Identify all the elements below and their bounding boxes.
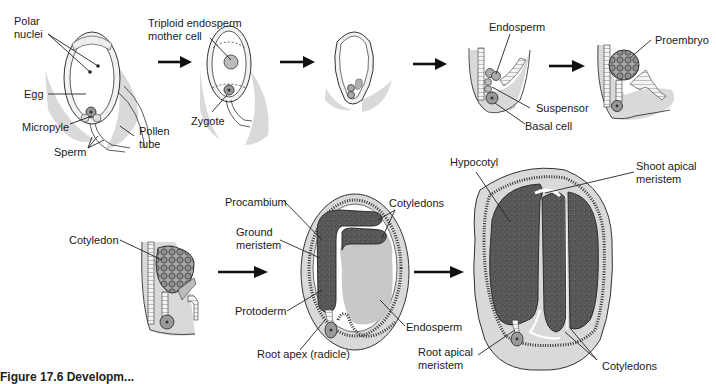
stage-fertilization: Polar nuclei Egg Micropyle Sperm Pollen … xyxy=(14,15,170,158)
stage-suspensor: Endosperm Suspensor Basal cell xyxy=(469,21,589,132)
label-cotyledons: Cotyledons xyxy=(389,197,445,209)
arrow-suspensor-to-proembryo xyxy=(549,60,585,72)
label-cotyledons-2: Cotyledons xyxy=(602,360,658,372)
label-polar-nuclei-2: nuclei xyxy=(14,28,43,40)
arrow-fertilization-to-zygote xyxy=(158,56,192,68)
label-zygote: Zygote xyxy=(191,115,225,127)
hypocotyl-region xyxy=(490,184,543,325)
stage-proembryo: Proembryo xyxy=(598,34,709,120)
label-suspensor: Suspensor xyxy=(536,102,589,114)
label-proembryo: Proembryo xyxy=(655,34,709,46)
label-pollen-tube-1: Pollen xyxy=(139,125,170,137)
label-sperm: Sperm xyxy=(54,146,86,158)
label-root-apical-1: Root apical xyxy=(418,346,473,358)
arrow-heart-to-torpedo xyxy=(218,266,268,278)
stage-mature: Hypocotyl Shoot apical meristem Root api… xyxy=(418,156,697,372)
label-endosperm-2: Endosperm xyxy=(406,321,462,333)
label-protoderm: Protoderm xyxy=(235,305,286,317)
label-endosperm: Endosperm xyxy=(489,21,545,33)
label-hypocotyl: Hypocotyl xyxy=(450,156,498,168)
label-ground-meristem-2: meristem xyxy=(236,239,281,251)
stage-heart: Cotyledon xyxy=(69,234,198,336)
label-root-apical-2: meristem xyxy=(418,359,463,371)
stage-first-division xyxy=(325,32,392,112)
label-procambium: Procambium xyxy=(225,196,287,208)
label-egg: Egg xyxy=(24,88,44,100)
label-shoot-apical-2: meristem xyxy=(636,173,681,185)
label-root-apex: Root apex (radicle) xyxy=(257,348,350,360)
arrow-zygote-to-division xyxy=(280,56,315,68)
label-pollen-tube-2: tube xyxy=(139,138,160,150)
seed-coat-layer xyxy=(478,48,484,100)
arrow-torpedo-to-mature xyxy=(414,266,464,278)
stage-torpedo: Procambium Ground meristem Cotyledons Pr… xyxy=(225,194,462,360)
label-polar-nuclei-1: Polar xyxy=(14,15,40,27)
arrow-division-to-suspensor xyxy=(413,58,447,70)
label-basal-cell: Basal cell xyxy=(525,120,572,132)
label-cotyledon: Cotyledon xyxy=(69,234,119,246)
label-shoot-apical-1: Shoot apical xyxy=(636,160,697,172)
label-triploid-2: mother cell xyxy=(148,30,202,42)
figure-caption-partial: Figure 17.6 Developm... xyxy=(0,370,134,384)
label-triploid-1: Triploid endosperm xyxy=(148,17,242,29)
label-micropyle: Micropyle xyxy=(22,121,69,133)
label-ground-meristem-1: Ground xyxy=(236,226,273,238)
endosperm-mother-cell xyxy=(224,55,238,69)
